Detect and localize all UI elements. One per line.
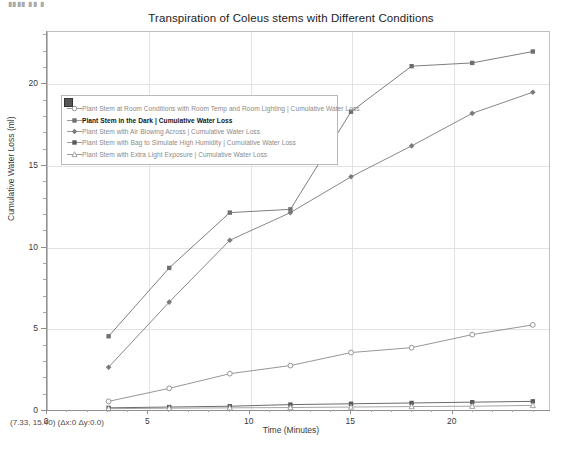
legend-item[interactable]: Plant Stem with Bag to Simulate High Hum… <box>67 137 332 148</box>
x-tick-minor <box>310 410 311 412</box>
x-tick-minor <box>472 410 473 412</box>
data-point <box>409 345 414 350</box>
data-point <box>167 386 172 391</box>
x-tick-major <box>46 410 47 414</box>
plot-area <box>47 31 550 410</box>
y-tick-label: 20 <box>29 78 38 88</box>
data-point <box>228 210 232 214</box>
data-point <box>469 111 475 117</box>
data-point <box>530 322 535 327</box>
y-axis-title: Cumulative Water Loss (ml) <box>6 116 16 221</box>
x-tick-minor <box>371 410 372 412</box>
data-point <box>470 332 475 337</box>
cursor-readout: (7.33, 15.40) (Δx:0 Δy:0.0) <box>10 418 104 427</box>
data-point <box>288 363 293 368</box>
legend-item[interactable]: Plant Stem with Extra Light Exposure | C… <box>67 149 332 160</box>
data-point <box>106 334 110 338</box>
x-tick-minor <box>127 410 128 412</box>
legend-item[interactable]: Plant Stem with Air Blowing Across | Cum… <box>67 126 332 137</box>
x-tick-major <box>147 410 148 414</box>
x-tick-minor <box>168 410 169 412</box>
legend-marker-filled-square-icon <box>67 115 82 126</box>
legend-item[interactable]: Plant Stem in the Dark | Cumulative Wate… <box>67 114 332 125</box>
y-tick-label: 0 <box>33 405 38 415</box>
legend[interactable]: Plant Stem at Room Conditions with Room … <box>61 95 338 165</box>
legend-marker-open-triangle-icon <box>67 149 82 160</box>
clipped-window-text: ▮▮▮▮ ▮▮ ▮ <box>8 0 82 7</box>
legend-label: Plant Stem at Room Conditions with Room … <box>82 105 360 112</box>
x-tick-minor <box>431 410 432 412</box>
y-tick-label: 15 <box>29 160 38 170</box>
data-point <box>531 49 535 53</box>
x-tick-minor <box>411 410 412 412</box>
x-tick-minor <box>188 410 189 412</box>
x-tick-minor <box>87 410 88 412</box>
x-tick-minor <box>229 410 230 412</box>
data-point <box>106 399 111 404</box>
legend-marker-filled-diamond-icon <box>67 126 82 137</box>
data-point <box>530 89 536 95</box>
x-tick-minor <box>492 410 493 412</box>
x-tick-minor <box>66 410 67 412</box>
x-tick-minor <box>391 410 392 412</box>
x-tick-major <box>350 410 351 414</box>
x-tick-major <box>249 410 250 414</box>
data-point <box>409 143 415 149</box>
chart-window: ▮▮▮▮ ▮▮ ▮ Transpiration of Coleus stems … <box>0 0 582 450</box>
legend-label: Plant Stem with Bag to Simulate High Hum… <box>82 139 296 146</box>
y-axis-ticks: 05101520 <box>0 31 46 411</box>
x-tick-minor <box>330 410 331 412</box>
series-line <box>109 325 533 401</box>
x-tick-minor <box>269 410 270 412</box>
x-tick-minor <box>512 410 513 412</box>
data-point <box>470 61 474 65</box>
x-tick-minor <box>289 410 290 412</box>
data-point <box>348 174 354 180</box>
legend-marker-filled-square-icon <box>67 137 82 148</box>
legend-item[interactable]: Plant Stem at Room Conditions with Room … <box>67 103 332 114</box>
chart-title: Transpiration of Coleus stems with Diffe… <box>0 12 582 24</box>
data-point <box>227 371 232 376</box>
x-tick-minor <box>107 410 108 412</box>
data-point <box>349 350 354 355</box>
series-layer <box>48 32 549 409</box>
legend-label: Plant Stem with Air Blowing Across | Cum… <box>82 128 260 135</box>
legend-marker-open-circle-icon <box>67 103 82 114</box>
data-point <box>167 266 171 270</box>
data-point <box>409 64 413 68</box>
x-tick-minor <box>208 410 209 412</box>
legend-label: Plant Stem in the Dark | Cumulative Wate… <box>82 117 232 124</box>
y-tick-label: 5 <box>33 323 38 333</box>
y-tick-label: 10 <box>29 242 38 252</box>
x-tick-minor <box>533 410 534 412</box>
x-tick-major <box>452 410 453 414</box>
legend-label: Plant Stem with Extra Light Exposure | C… <box>82 151 267 158</box>
